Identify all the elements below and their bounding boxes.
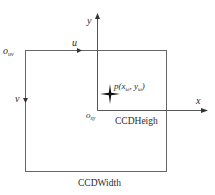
y-axis-label: y (86, 15, 92, 26)
x-arrow-icon (201, 108, 208, 113)
u-arrow-icon (77, 48, 82, 53)
ccd-coordinate-diagram: ouv u v y x oxy p(xω, yω) CCDHeigh CCDWi… (0, 0, 215, 195)
x-axis-label: x (195, 95, 201, 106)
ccd-width-label: CCDWidth (78, 178, 121, 188)
v-axis-label: v (15, 93, 20, 104)
point-label: p(xω, yω) (113, 81, 145, 92)
origin-xy-label: oxy (86, 110, 96, 121)
ccd-height-label: CCDHeigh (115, 116, 158, 126)
origin-uv-label: ouv (3, 45, 14, 57)
u-axis-label: u (72, 37, 77, 48)
y-arrow-icon (95, 13, 100, 19)
v-arrow-icon (23, 98, 28, 103)
